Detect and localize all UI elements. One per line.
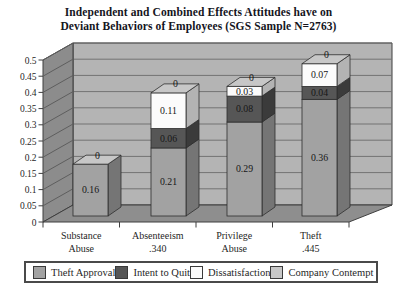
y-axis-tick-label: 0.35 (20, 104, 37, 114)
y-axis-tick-label: 0.15 (20, 169, 37, 179)
bar-value-label: 0.36 (311, 152, 328, 163)
legend-swatch-theft-approval (33, 266, 46, 279)
category-label-line2: .445 (302, 243, 320, 254)
bar-value-label: 0.08 (236, 103, 253, 114)
bar-value-label: 0.07 (311, 69, 328, 80)
bar-value-label: 0.11 (160, 105, 177, 116)
bar-zero-label: 0 (324, 49, 329, 60)
legend-label-dissatisfaction: Dissatisfaction (208, 267, 270, 278)
legend-label-theft-approval: Theft Approval (51, 267, 115, 278)
chart-figure: Independent and Combined Effects Attitud… (0, 0, 397, 299)
legend-item-dissatisfaction: Dissatisfaction (190, 266, 270, 279)
chart-legend: Theft ApprovalIntent to QuitDissatisfact… (24, 261, 378, 283)
category-label-line1: Theft (300, 230, 322, 241)
bar-zero-label: 0 (173, 78, 178, 89)
y-axis-tick-label: 0.5 (25, 56, 37, 66)
legend-swatch-company-contempt (270, 266, 283, 279)
category-label-line2: .340 (149, 243, 167, 254)
legend-label-intent-to-quit: Intent to Quit (133, 267, 190, 278)
bar-value-label: 0.29 (236, 163, 253, 174)
bar-value-label: 0.06 (160, 133, 177, 144)
legend-label-company-contempt: Company Contempt (288, 267, 373, 278)
legend-item-company-contempt: Company Contempt (270, 266, 373, 279)
bar-value-label: 0.21 (160, 176, 177, 187)
y-axis-tick-label: 0.4 (25, 88, 37, 98)
y-axis-tick-label: 0.1 (25, 185, 37, 195)
y-axis-tick-label: 0.25 (20, 137, 37, 147)
legend-item-theft-approval: Theft Approval (33, 266, 115, 279)
y-axis-tick-label: 0.3 (25, 120, 37, 130)
bar-segment-side-theft-approval (186, 139, 199, 216)
category-label-line2: Abuse (68, 243, 94, 254)
bar-value-label: 0.03 (236, 86, 253, 97)
category-label-line1: Substance (61, 230, 102, 241)
bar-value-label: 0.16 (82, 184, 99, 195)
bar-segment-side-theft-approval (108, 155, 121, 216)
category-label-line1: Absenteeism (132, 230, 184, 241)
y-axis-tick-label: 0.05 (20, 201, 37, 211)
legend-swatch-intent-to-quit (115, 266, 128, 279)
y-axis-tick-label: 0.2 (25, 153, 37, 163)
bar-value-label: 0.04 (311, 87, 328, 98)
chart-plot-area: 00.050.10.150.20.250.30.350.40.450.5Subs… (0, 0, 397, 299)
bar-zero-label: 0 (249, 72, 254, 83)
bar-zero-label: 0 (95, 150, 100, 161)
category-label-line2: Abuse (221, 243, 247, 254)
bar-segment-side-theft-approval (337, 90, 350, 216)
y-axis-tick-label: 0 (32, 218, 37, 228)
legend-swatch-dissatisfaction (190, 266, 203, 279)
legend-item-intent-to-quit: Intent to Quit (115, 266, 190, 279)
category-label-line1: Privilege (216, 230, 253, 241)
y-axis-tick-label: 0.45 (20, 72, 37, 82)
bar-segment-side-theft-approval (262, 113, 275, 216)
